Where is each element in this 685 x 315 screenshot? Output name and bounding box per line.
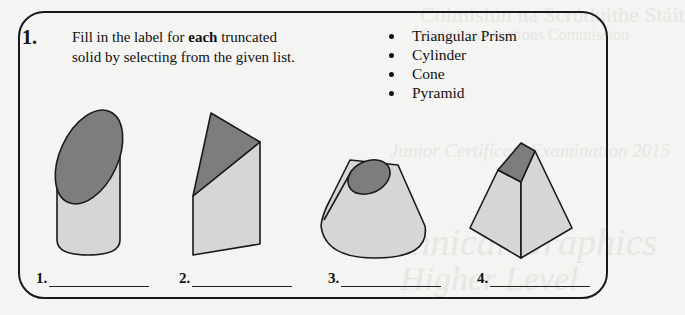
answer-4: 4.: [477, 268, 590, 287]
figure-truncated-cylinder: [42, 99, 137, 255]
answer-2: 2.: [179, 268, 292, 287]
answer-label: 2.: [179, 270, 190, 287]
figure-truncated-triangular-prism: [193, 113, 260, 255]
figure-truncated-cone: [321, 153, 425, 258]
answer-label: 3.: [328, 270, 339, 287]
answer-1: 1.: [36, 268, 149, 287]
answer-label: 4.: [477, 270, 488, 287]
answer-blank[interactable]: [490, 268, 590, 287]
answer-label: 1.: [36, 270, 47, 287]
answer-blank[interactable]: [341, 268, 441, 287]
figure-truncated-pyramid: [470, 143, 572, 258]
answer-blank[interactable]: [49, 268, 149, 287]
answer-blank[interactable]: [192, 268, 292, 287]
answer-3: 3.: [328, 268, 441, 287]
